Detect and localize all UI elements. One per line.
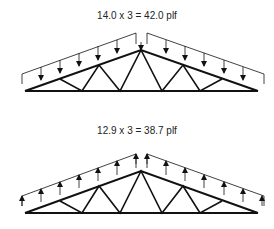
truss-downward-load <box>22 33 264 91</box>
truss-diagrams <box>0 0 274 229</box>
truss-upward-load <box>22 154 264 213</box>
